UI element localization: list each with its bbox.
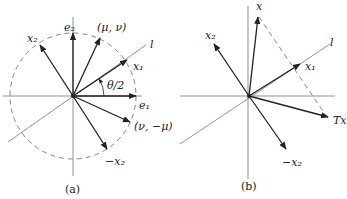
label-x2-a: x₂ [27,32,38,45]
vector-x [249,17,258,96]
label-l-b: l [330,36,334,49]
vector-x2-b [214,44,249,96]
vector-x2 [40,45,73,96]
label-x: x [256,0,263,13]
label-neg-x2-a: −x₂ [105,155,125,168]
label-angle: θ/2 [107,79,124,92]
label-x1-b: x₁ [305,60,316,73]
figure-a: e₂ (μ, ν) x₂ l x₁ θ/2 e₁ (ν, −μ) −x₂ (a) [3,17,173,196]
line-l-b [180,44,330,144]
figure-b: x x₂ l x₁ Tx −x₂ (b) [180,0,347,193]
label-mu-nu: (μ, ν) [97,21,126,34]
label-nu-neg-mu: (ν, −μ) [134,120,173,133]
origin-dot-a [71,94,75,98]
label-x1-a: x₁ [133,60,144,73]
label-Tx: Tx [333,114,347,127]
reflection-diagram: e₂ (μ, ν) x₂ l x₁ θ/2 e₁ (ν, −μ) −x₂ (a)… [0,0,347,199]
label-l-a: l [150,38,154,51]
label-x2-b: x₂ [205,29,216,42]
angle-arc [99,79,104,96]
label-e2: e₂ [64,21,75,34]
vector-x1-b [249,64,300,96]
label-e1: e₁ [139,99,150,112]
caption-a: (a) [65,183,80,196]
label-neg-x2-b: −x₂ [282,156,302,169]
origin-dot-b [247,94,251,98]
caption-b: (b) [241,180,257,193]
